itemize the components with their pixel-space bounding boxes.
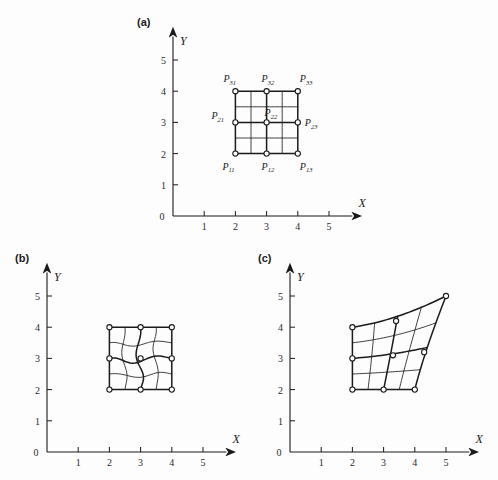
control-point-label: P22 (264, 107, 278, 120)
y-axis-tick-label: 3 (35, 353, 40, 364)
y-axis-tick-label: 5 (161, 55, 166, 66)
control-point[interactable] (107, 325, 112, 330)
control-point-label: P31 (222, 73, 236, 86)
control-point-label: P21 (210, 110, 224, 123)
panel-c: (c)XY01234512345 (258, 252, 483, 468)
y-axis-tick-label: 2 (161, 149, 166, 160)
y-axis-tick-label: 3 (161, 117, 166, 128)
control-point[interactable] (422, 350, 427, 355)
mesh-line-iso-v (352, 296, 446, 327)
control-point[interactable] (443, 293, 448, 298)
x-axis-tick-label: 2 (350, 457, 355, 468)
x-axis-tick-label: 5 (201, 457, 206, 468)
control-point[interactable] (295, 120, 300, 125)
mesh-line-iso-u (153, 327, 158, 389)
mesh-line-iso-v (109, 372, 171, 377)
panel-label-a: (a) (137, 16, 151, 28)
control-point[interactable] (138, 325, 143, 330)
control-point[interactable] (295, 151, 300, 156)
x-axis-tick-label: 1 (319, 457, 324, 468)
mesh-line-iso-u (122, 327, 127, 389)
x-axis-tick-label: 3 (264, 221, 269, 232)
control-point-label: P33 (299, 73, 313, 86)
origin-tick-label: 0 (160, 211, 165, 222)
control-point[interactable] (390, 353, 395, 358)
control-point-label: P13 (299, 161, 313, 174)
control-point[interactable] (264, 120, 269, 125)
y-axis-tick-label: 5 (35, 291, 40, 302)
control-point[interactable] (350, 356, 355, 361)
x-axis-tick-label: 1 (202, 221, 207, 232)
x-axis-tick-label: 2 (233, 221, 238, 232)
y-axis-tick-label: 4 (35, 322, 40, 333)
x-axis-tick-label: 5 (327, 221, 332, 232)
control-point[interactable] (169, 387, 174, 392)
control-point-label: P12 (261, 161, 275, 174)
x-axis-tick-label: 5 (444, 457, 449, 468)
x-axis-tick-label: 3 (138, 457, 143, 468)
figure-canvas: (a)XY01234512345P31P32P33P21P22P23P11P12… (0, 0, 498, 480)
panel-b: (b)XY01234512345 (15, 252, 240, 468)
x-axis-tick-label: 1 (76, 457, 81, 468)
y-axis-tick-label: 2 (278, 385, 283, 396)
panel-label-b: (b) (15, 252, 29, 264)
control-point[interactable] (233, 89, 238, 94)
control-point[interactable] (381, 387, 386, 392)
origin-tick-label: 0 (34, 447, 39, 458)
control-point[interactable] (107, 356, 112, 361)
control-point-label: P23 (304, 117, 318, 130)
control-point[interactable] (138, 387, 143, 392)
control-point[interactable] (412, 387, 417, 392)
y-axis-tick-label: 1 (161, 180, 166, 191)
panel-label-c: (c) (258, 252, 272, 264)
y-axis-tick-label: 1 (35, 416, 40, 427)
control-point[interactable] (350, 325, 355, 330)
x-axis-tick-label: 4 (169, 457, 174, 468)
x-axis-label: X (231, 432, 240, 446)
y-axis-label: Y (180, 34, 188, 48)
control-point[interactable] (107, 387, 112, 392)
mesh-line-iso-u (415, 296, 446, 390)
y-axis-tick-label: 4 (161, 86, 166, 97)
x-axis-tick-label: 3 (381, 457, 386, 468)
x-axis-tick-label: 4 (295, 221, 300, 232)
y-axis-tick-label: 1 (278, 416, 283, 427)
control-point[interactable] (350, 387, 355, 392)
y-axis-tick-label: 4 (278, 322, 283, 333)
y-axis-tick-label: 3 (278, 353, 283, 364)
x-axis-label: X (357, 196, 366, 210)
control-point[interactable] (233, 120, 238, 125)
control-point[interactable] (169, 356, 174, 361)
x-axis-tick-label: 2 (107, 457, 112, 468)
control-point[interactable] (138, 356, 143, 361)
y-axis-tick-label: 2 (35, 385, 40, 396)
control-point[interactable] (264, 89, 269, 94)
y-axis-tick-label: 5 (278, 291, 283, 302)
control-point-label: P11 (221, 161, 234, 174)
origin-tick-label: 0 (277, 447, 282, 458)
control-point[interactable] (169, 325, 174, 330)
mesh-line-iso-v (109, 341, 171, 346)
control-point[interactable] (233, 151, 238, 156)
control-point[interactable] (295, 89, 300, 94)
y-axis-label: Y (297, 270, 305, 284)
control-point-label: P32 (261, 73, 275, 86)
control-point[interactable] (264, 151, 269, 156)
x-axis-tick-label: 4 (412, 457, 417, 468)
y-axis-label: Y (54, 270, 62, 284)
x-axis-label: X (474, 432, 483, 446)
panel-a: (a)XY01234512345P31P32P33P21P22P23P11P12… (137, 16, 366, 232)
control-point[interactable] (393, 318, 398, 323)
